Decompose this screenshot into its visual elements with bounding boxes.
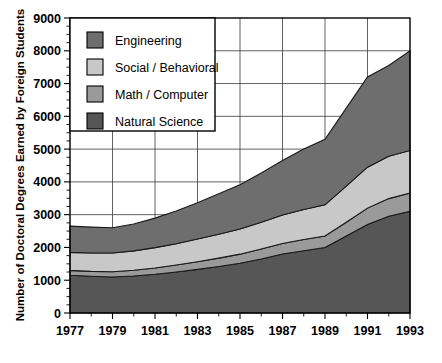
x-axis-tick-label: 1993	[396, 324, 424, 338]
legend-label: Math / Computer	[115, 88, 208, 102]
y-axis-tick-label: 2000	[33, 241, 61, 255]
legend-swatch	[87, 86, 103, 102]
legend-label: Engineering	[115, 34, 182, 48]
y-axis-tick-label: 0	[54, 307, 61, 321]
y-axis-tick-label: 6000	[33, 110, 61, 124]
x-axis-tick-label: 1989	[311, 324, 339, 338]
x-axis-tick-label: 1983	[184, 324, 212, 338]
legend-swatch	[87, 59, 103, 75]
legend-label: Social / Behavioral	[115, 61, 219, 75]
x-axis-ticks	[70, 313, 410, 319]
x-axis-tick-label: 1987	[269, 324, 297, 338]
x-axis-tick-label: 1977	[56, 324, 84, 338]
legend-label: Natural Science	[115, 115, 203, 129]
y-axis-title: Number of Doctoral Degrees Earned by For…	[14, 9, 26, 321]
x-axis-tick-label: 1991	[354, 324, 382, 338]
legend-swatch	[87, 113, 103, 129]
legend: EngineeringSocial / BehavioralMath / Com…	[70, 18, 219, 131]
y-axis-ticks	[64, 18, 70, 313]
x-axis-tick-label: 1979	[99, 324, 127, 338]
y-axis-tick-label: 8000	[33, 44, 61, 58]
y-axis-tick-label: 7000	[33, 77, 61, 91]
x-axis-tick-labels: 197719791981198319851987198919911993	[56, 324, 424, 338]
chart-canvas: 0100020003000400050006000700080009000 19…	[0, 0, 442, 363]
y-axis-tick-label: 5000	[33, 143, 61, 157]
legend-swatch	[87, 32, 103, 48]
y-axis-tick-label: 1000	[33, 274, 61, 288]
y-axis-tick-label: 3000	[33, 208, 61, 222]
area-chart: 0100020003000400050006000700080009000 19…	[0, 0, 442, 363]
y-axis-tick-label: 4000	[33, 175, 61, 189]
y-axis-title-text: Number of Doctoral Degrees Earned by For…	[14, 9, 26, 321]
y-axis-tick-label: 9000	[33, 12, 61, 26]
x-axis-tick-label: 1985	[226, 324, 254, 338]
x-axis-tick-label: 1981	[141, 324, 169, 338]
y-axis-tick-labels: 0100020003000400050006000700080009000	[33, 12, 61, 321]
